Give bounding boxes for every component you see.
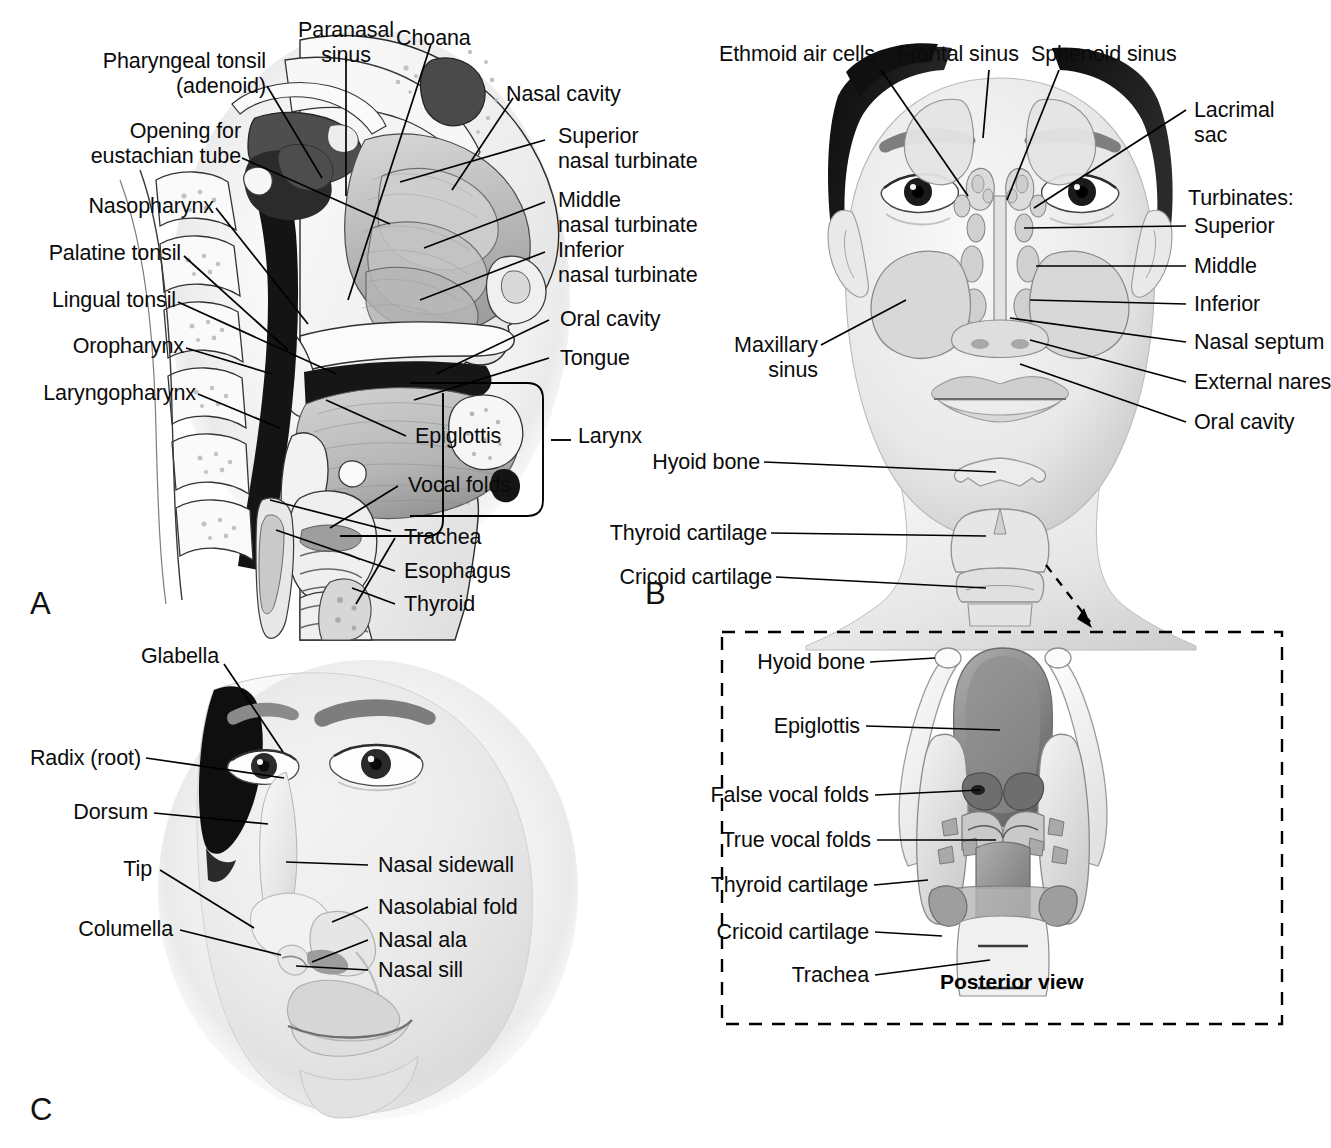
label-false-vocal-folds: False vocal folds <box>650 783 869 808</box>
label-epiglottis-inset: Epiglottis <box>700 714 860 739</box>
label-nasal-ala: Nasal ala <box>378 928 467 953</box>
label-sphenoid-sinus: Sphenoid sinus <box>1031 42 1177 67</box>
label-opening-eustachian-tube: Opening foreustachian tube <box>0 119 241 169</box>
inset-caption-posterior-view: Posterior view <box>940 970 1084 994</box>
label-true-vocal-folds: True vocal folds <box>650 828 871 853</box>
label-turbinate-inferior: Inferior <box>1194 292 1260 317</box>
label-larynx: Larynx <box>578 424 642 449</box>
label-turbinate-middle: Middle <box>1194 254 1257 279</box>
label-turbinates-heading: Turbinates: <box>1188 186 1294 211</box>
label-trachea-inset: Trachea <box>700 963 869 988</box>
panel-c-artwork <box>146 660 578 1120</box>
label-columella: Columella <box>0 917 173 942</box>
label-lingual-tonsil: Lingual tonsil <box>0 288 176 313</box>
label-hyoid-bone-b: Hyoid bone <box>590 450 760 475</box>
label-dorsum: Dorsum <box>0 800 148 825</box>
label-turbinate-superior: Superior <box>1194 214 1274 239</box>
label-hyoid-bone-inset: Hyoid bone <box>700 650 865 675</box>
label-inferior-nasal-turbinate: Inferiornasal turbinate <box>558 238 698 288</box>
label-nasal-septum: Nasal septum <box>1194 330 1324 355</box>
label-oral-cavity-a: Oral cavity <box>560 307 660 332</box>
label-maxillary-sinus: Maxillarysinus <box>640 333 818 383</box>
label-radix-root: Radix (root) <box>0 746 141 771</box>
label-superior-nasal-turbinate: Superiornasal turbinate <box>558 124 698 174</box>
label-tongue: Tongue <box>560 346 630 371</box>
label-middle-nasal-turbinate: Middlenasal turbinate <box>558 188 698 238</box>
label-nasal-cavity: Nasal cavity <box>506 82 621 107</box>
label-esophagus: Esophagus <box>404 559 511 584</box>
label-nasopharynx: Nasopharynx <box>0 194 214 219</box>
label-nasolabial-fold: Nasolabial fold <box>378 895 518 920</box>
panel-letter-c: C <box>30 1094 52 1125</box>
label-tip: Tip <box>0 857 152 882</box>
label-thyroid-cartilage-b: Thyroid cartilage <box>530 521 767 546</box>
label-oropharynx: Oropharynx <box>0 334 184 359</box>
panel-letter-b: B <box>645 578 666 609</box>
label-glabella: Glabella <box>141 644 219 669</box>
label-epiglottis-a: Epiglottis <box>415 424 501 449</box>
label-cricoid-cartilage-inset: Cricoid cartilage <box>650 920 869 945</box>
label-frontal-sinus: Frontal sinus <box>897 42 1019 67</box>
label-trachea-a: Trachea <box>404 525 481 550</box>
label-thyroid-cartilage-inset: Thyroid cartilage <box>650 873 868 898</box>
label-ethmoid-air-cells: Ethmoid air cells <box>719 42 875 67</box>
label-oral-cavity-b: Oral cavity <box>1194 410 1294 435</box>
label-nasal-sidewall: Nasal sidewall <box>378 853 514 878</box>
panel-letter-a: A <box>30 588 51 619</box>
label-external-nares: External nares <box>1194 370 1331 395</box>
label-pharyngeal-tonsil: Pharyngeal tonsil(adenoid) <box>0 49 266 99</box>
label-vocal-folds: Vocal folds <box>408 473 511 498</box>
label-laryngopharynx: Laryngopharynx <box>0 381 196 406</box>
label-choana: Choana <box>396 26 471 51</box>
label-thyroid: Thyroid <box>404 592 475 617</box>
label-lacrimal-sac: Lacrimalsac <box>1194 98 1274 148</box>
label-palatine-tonsil: Palatine tonsil <box>0 241 181 266</box>
label-nasal-sill: Nasal sill <box>378 958 463 983</box>
